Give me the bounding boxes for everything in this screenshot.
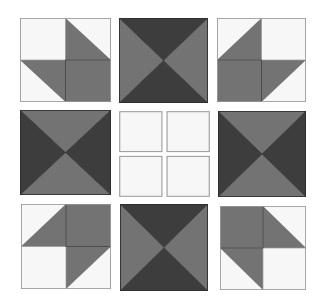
plain-square-2: [167, 112, 209, 152]
plain-square-1: [120, 112, 162, 152]
plain-square-4: [167, 156, 209, 196]
dark-square: [217, 60, 262, 102]
dark-square: [66, 60, 112, 102]
quilt-block-hourglass-r1c0: [20, 110, 111, 195]
quilt-block-hst-corner-r2c0: [21, 204, 111, 289]
quilt-block-four-patch-plain-r1c1: [119, 111, 210, 197]
quilt-block-hourglass-r1c2: [218, 111, 306, 197]
quilt-block-hst-corner-r2c2: [220, 206, 306, 290]
dark-square: [220, 206, 263, 248]
quilt-block-hourglass-r2c1: [120, 204, 208, 291]
dark-square: [66, 204, 111, 247]
quilt-block-hourglass-r0c1: [119, 18, 208, 103]
quilt-block-hst-corner-r0c2: [217, 18, 306, 102]
quilt-block-hst-corner-r0c0: [20, 18, 111, 102]
plain-square-3: [120, 156, 162, 196]
